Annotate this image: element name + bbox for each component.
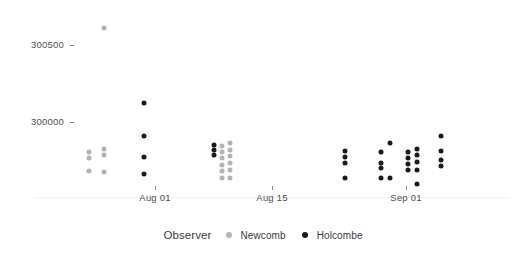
x-axis-tick-label: Aug 15 bbox=[256, 192, 287, 203]
x-axis-tick-mark bbox=[272, 186, 273, 190]
legend-title: Observer bbox=[163, 229, 211, 241]
legend-item-holcombe[interactable]: Holcombe bbox=[302, 230, 363, 241]
x-axis: Aug 01Aug 15Sep 01 bbox=[0, 0, 526, 254]
legend: Observer Newcomb Holcombe bbox=[0, 222, 526, 248]
x-axis-tick-mark bbox=[155, 186, 156, 190]
x-axis-tick-label: Aug 01 bbox=[139, 192, 170, 203]
legend-label-holcombe: Holcombe bbox=[317, 230, 363, 241]
x-axis-tick-label: Sep 01 bbox=[390, 192, 421, 203]
legend-label-newcomb: Newcomb bbox=[241, 230, 286, 241]
x-axis-tick-mark bbox=[406, 186, 407, 190]
scatter-chart: 300500300000 Aug 01Aug 15Sep 01 Observer… bbox=[0, 0, 526, 254]
legend-swatch-holcombe-icon bbox=[302, 232, 308, 238]
legend-swatch-newcomb-icon bbox=[226, 232, 232, 238]
legend-item-newcomb[interactable]: Newcomb bbox=[226, 230, 286, 241]
